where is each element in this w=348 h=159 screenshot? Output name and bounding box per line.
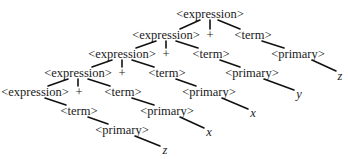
tree-node-terminal: z: [163, 144, 168, 157]
tree-node-nonterminal: <primary>: [271, 48, 325, 61]
tree-node-nonterminal: <expression>: [44, 67, 112, 80]
tree-edge: [135, 136, 160, 146]
tree-node-nonterminal: <term>: [60, 105, 97, 118]
tree-node-nonterminal: <term>: [104, 86, 141, 99]
tree-node-operator: +: [118, 67, 125, 80]
tree-node-nonterminal: <term>: [148, 67, 185, 80]
tree-node-operator: +: [162, 48, 169, 61]
tree-node-terminal: z: [338, 70, 343, 83]
tree-node-nonterminal: <primary>: [182, 86, 236, 99]
tree-edge: [312, 60, 336, 71]
tree-edge: [180, 117, 204, 128]
tree-node-terminal: y: [296, 88, 302, 101]
tree-node-nonterminal: <primary>: [140, 105, 194, 118]
tree-edge: [264, 79, 294, 90]
tree-node-operator: +: [206, 29, 213, 42]
tree-node-nonterminal: <term>: [234, 29, 271, 42]
tree-edge: [222, 98, 248, 109]
tree-node-terminal: x: [250, 107, 256, 120]
tree-node-nonterminal: <primary>: [95, 124, 149, 137]
tree-node-nonterminal: <primary>: [225, 67, 279, 80]
tree-node-nonterminal: <expression>: [1, 86, 69, 99]
tree-node-nonterminal: <expression>: [132, 29, 200, 42]
tree-node-operator: +: [75, 86, 82, 99]
parse-tree-diagram: <expression><expression>+<term><expressi…: [0, 0, 348, 159]
tree-node-nonterminal: <expression>: [176, 8, 244, 21]
tree-node-nonterminal: <term>: [192, 48, 229, 61]
tree-node-nonterminal: <expression>: [88, 48, 156, 61]
tree-node-terminal: x: [206, 126, 212, 139]
